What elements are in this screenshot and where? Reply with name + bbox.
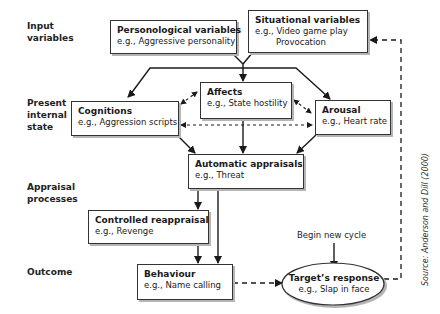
node-example: Provocation xyxy=(255,37,361,48)
node-title: Personological variables xyxy=(117,24,230,36)
node-title: Situational variables xyxy=(255,14,361,26)
node-title: Controlled reappraisal xyxy=(95,214,202,226)
node-title: Target’s response xyxy=(283,272,385,284)
node-title: Arousal xyxy=(322,104,384,116)
node-example: e.g., Heart rate xyxy=(322,116,384,127)
node-title: Cognitions xyxy=(78,105,172,117)
node-controlled-reappraisal: Controlled reappraisal e.g., Revenge xyxy=(88,210,209,244)
node-situational-variables: Situational variables e.g., Video game p… xyxy=(248,10,368,53)
node-example: e.g., Revenge xyxy=(95,226,202,237)
node-example: e.g., Slap in face xyxy=(283,284,385,295)
begin-new-cycle-label: Begin new cycle xyxy=(297,230,366,240)
node-affects: Affects e.g., State hostility xyxy=(200,82,292,119)
node-automatic-appraisals: Automatic appraisals e.g., Threat xyxy=(188,154,304,189)
node-title: Affects xyxy=(207,86,285,98)
node-example: e.g., Threat xyxy=(195,170,297,181)
node-example: e.g., Name calling xyxy=(144,280,226,291)
node-targets-response: Target’s response e.g., Slap in face xyxy=(283,272,385,295)
node-personological-variables: Personological variables e.g., Aggressiv… xyxy=(110,20,237,54)
node-example: e.g., Video game play xyxy=(255,26,361,37)
node-cognitions: Cognitions e.g., Aggression scripts xyxy=(71,101,179,136)
node-example: e.g., State hostility xyxy=(207,98,285,109)
node-behaviour: Behaviour e.g., Name calling xyxy=(137,264,233,300)
node-example: e.g., Aggression scripts xyxy=(78,117,172,128)
node-title: Automatic appraisals xyxy=(195,158,297,170)
node-arousal: Arousal e.g., Heart rate xyxy=(315,100,391,135)
source-citation: Source: Anderson and Dill (2000) xyxy=(421,153,430,286)
node-title: Behaviour xyxy=(144,268,226,280)
node-example: e.g., Aggressive personality xyxy=(117,36,230,47)
